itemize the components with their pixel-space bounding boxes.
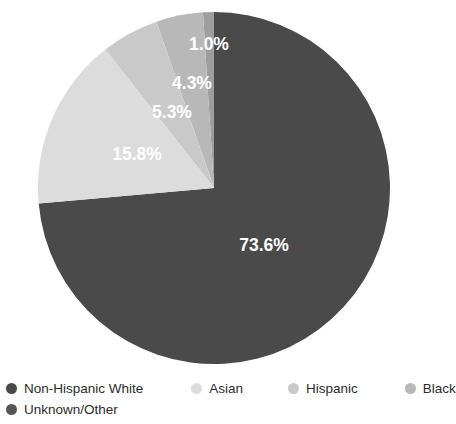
chart-legend: Non-Hispanic WhiteAsianHispanicBlack Unk… xyxy=(0,378,438,424)
legend-row-secondary: Unknown/Other xyxy=(6,399,432,420)
legend-swatch-icon xyxy=(6,404,17,415)
legend-item-label: Hispanic xyxy=(306,378,358,399)
legend-item-label: Asian xyxy=(209,378,243,399)
pie-slice-label-hispanic: 5.3% xyxy=(152,102,192,122)
pie-chart-svg: 73.6%15.8%5.3%4.3%1.0% xyxy=(0,0,438,372)
legend-item-unknown-other[interactable]: Unknown/Other xyxy=(6,399,118,420)
legend-item-label: Non-Hispanic White xyxy=(24,378,143,399)
legend-swatch-icon xyxy=(6,383,17,394)
pie-chart-plot-area: 73.6%15.8%5.3%4.3%1.0% xyxy=(0,0,438,372)
pie-slice-label-asian: 15.8% xyxy=(112,144,162,164)
legend-row-primary: Non-Hispanic WhiteAsianHispanicBlack xyxy=(6,378,432,399)
legend-item-label: Unknown/Other xyxy=(24,399,118,420)
legend-swatch-icon xyxy=(405,383,416,394)
legend-swatch-icon xyxy=(191,383,202,394)
pie-slice-label-unknown-other: 1.0% xyxy=(189,34,229,54)
legend-item-black[interactable]: Black xyxy=(405,378,456,399)
legend-swatch-icon xyxy=(288,383,299,394)
legend-item-hispanic[interactable]: Hispanic xyxy=(288,378,358,399)
pie-slice-label-non-hispanic-white: 73.6% xyxy=(239,235,289,255)
pie-slice-label-black: 4.3% xyxy=(172,73,212,93)
pie-slice-group xyxy=(38,12,390,364)
legend-item-asian[interactable]: Asian xyxy=(191,378,243,399)
legend-item-label: Black xyxy=(423,378,456,399)
legend-item-non-hispanic-white[interactable]: Non-Hispanic White xyxy=(6,378,143,399)
